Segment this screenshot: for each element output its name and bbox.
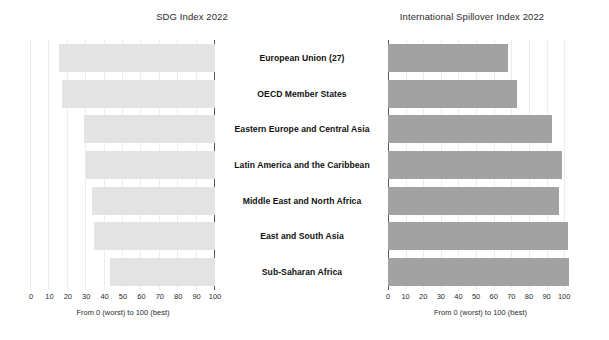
category-label: OECD Member States bbox=[257, 89, 346, 99]
category-label-column: European Union (27)OECD Member StatesEas… bbox=[218, 40, 386, 290]
axis-tick-label: 50 bbox=[119, 292, 127, 301]
category-label: Eastern Europe and Central Asia bbox=[235, 124, 370, 134]
axis-tick-label: 50 bbox=[472, 292, 480, 301]
left-plot-area bbox=[31, 40, 215, 290]
axis-tick-label: 10 bbox=[45, 292, 53, 301]
bar[interactable] bbox=[92, 187, 215, 215]
bar-band bbox=[388, 80, 573, 108]
axis-tick-label: 30 bbox=[437, 292, 445, 301]
bar[interactable] bbox=[388, 187, 559, 215]
category-row: Eastern Europe and Central Asia bbox=[218, 115, 386, 143]
axis-tick-label: 90 bbox=[192, 292, 200, 301]
category-label: Latin America and the Caribbean bbox=[234, 160, 369, 170]
axis-tick-label: 40 bbox=[454, 292, 462, 301]
axis-tick-label: 70 bbox=[156, 292, 164, 301]
category-row: OECD Member States bbox=[218, 80, 386, 108]
axis-tick-label: 100 bbox=[558, 292, 571, 301]
bar-band bbox=[388, 44, 573, 72]
category-row: European Union (27) bbox=[218, 44, 386, 72]
axis-tick-label: 100 bbox=[209, 292, 222, 301]
axis-tick-label: 70 bbox=[507, 292, 515, 301]
bar-band bbox=[388, 222, 573, 250]
axis-tick-label: 0 bbox=[29, 292, 33, 301]
category-row: Sub-Saharan Africa bbox=[218, 258, 386, 286]
bar-band bbox=[31, 44, 215, 72]
right-chart-panel: 0102030405060708090100 bbox=[388, 40, 573, 290]
bar[interactable] bbox=[388, 151, 562, 179]
category-row: East and South Asia bbox=[218, 222, 386, 250]
sdg-spillover-figure: SDG Index 2022 International Spillover I… bbox=[0, 0, 609, 340]
left-chart-title: SDG Index 2022 bbox=[112, 11, 272, 22]
bar-band bbox=[31, 222, 215, 250]
bar[interactable] bbox=[84, 115, 215, 143]
axis-tick-label: 80 bbox=[525, 292, 533, 301]
bar-band bbox=[388, 151, 573, 179]
bar-band bbox=[388, 115, 573, 143]
right-axis-caption: From 0 (worst) to 100 (best) bbox=[388, 308, 573, 317]
bar-band bbox=[31, 187, 215, 215]
axis-tick-label: 40 bbox=[100, 292, 108, 301]
bar-band bbox=[388, 187, 573, 215]
category-row: Middle East and North Africa bbox=[218, 187, 386, 215]
right-axis-ticks: 0102030405060708090100 bbox=[388, 292, 573, 306]
axis-tick-label: 10 bbox=[401, 292, 409, 301]
bar[interactable] bbox=[62, 80, 215, 108]
axis-tick-label: 60 bbox=[490, 292, 498, 301]
bar[interactable] bbox=[86, 151, 215, 179]
axis-tick-label: 20 bbox=[419, 292, 427, 301]
axis-tick-label: 30 bbox=[82, 292, 90, 301]
category-label: Sub-Saharan Africa bbox=[262, 267, 342, 277]
right-chart-title: International Spillover Index 2022 bbox=[382, 11, 562, 22]
bar[interactable] bbox=[59, 44, 215, 72]
bar[interactable] bbox=[388, 44, 508, 72]
bar-band bbox=[31, 80, 215, 108]
bar[interactable] bbox=[110, 258, 215, 286]
axis-tick-label: 60 bbox=[137, 292, 145, 301]
bar-band bbox=[31, 258, 215, 286]
bar-band bbox=[31, 115, 215, 143]
bar[interactable] bbox=[94, 222, 215, 250]
left-axis-caption: From 0 (worst) to 100 (best) bbox=[31, 308, 215, 317]
bar-band bbox=[388, 258, 573, 286]
category-label: Middle East and North Africa bbox=[243, 196, 362, 206]
bar[interactable] bbox=[388, 80, 517, 108]
right-plot-area bbox=[388, 40, 573, 290]
axis-tick-label: 0 bbox=[386, 292, 390, 301]
category-label: East and South Asia bbox=[260, 231, 344, 241]
bar[interactable] bbox=[388, 222, 568, 250]
axis-tick-label: 90 bbox=[542, 292, 550, 301]
left-chart-panel: 0102030405060708090100 bbox=[31, 40, 215, 290]
bar-band bbox=[31, 151, 215, 179]
bar[interactable] bbox=[388, 258, 569, 286]
axis-tick-label: 20 bbox=[64, 292, 72, 301]
axis-tick-label: 80 bbox=[174, 292, 182, 301]
left-axis-ticks: 0102030405060708090100 bbox=[31, 292, 215, 306]
category-row: Latin America and the Caribbean bbox=[218, 151, 386, 179]
category-label: European Union (27) bbox=[260, 53, 345, 63]
bar[interactable] bbox=[388, 115, 552, 143]
